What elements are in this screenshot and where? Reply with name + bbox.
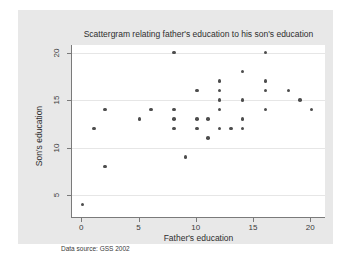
- data-point: [206, 117, 210, 121]
- data-point: [184, 155, 188, 159]
- data-point: [298, 98, 302, 102]
- x-axis-title: Father's education: [71, 233, 326, 243]
- screenshot-root: Scattergram relating father's education …: [0, 0, 350, 255]
- x-tick-label-20: 20: [306, 223, 315, 232]
- data-point: [172, 127, 176, 131]
- y-tick-20: [67, 53, 71, 54]
- y-tick-label-5: 5: [52, 187, 61, 203]
- data-point: [218, 79, 222, 83]
- data-point: [103, 108, 107, 112]
- data-source-note: Data source: GSS 2002: [61, 245, 130, 252]
- x-tick-label-0: 0: [79, 223, 83, 232]
- data-point: [241, 127, 245, 131]
- data-point: [241, 98, 245, 102]
- x-tick-label-10: 10: [191, 223, 200, 232]
- data-point: [195, 127, 199, 131]
- data-point: [264, 79, 268, 83]
- x-tick-20: [310, 218, 311, 222]
- data-point: [195, 117, 199, 121]
- y-tick-label-10: 10: [52, 140, 61, 156]
- x-tick-label-5: 5: [136, 223, 140, 232]
- data-point: [92, 127, 96, 131]
- data-point: [172, 51, 176, 55]
- data-point: [241, 117, 245, 121]
- data-point: [195, 89, 199, 93]
- x-tick-15: [253, 218, 254, 222]
- x-tick-5: [139, 218, 140, 222]
- gridline-y-5: [72, 195, 325, 196]
- data-point: [138, 117, 142, 121]
- data-point: [264, 108, 268, 112]
- data-point: [218, 89, 222, 93]
- y-tick-label-15: 15: [52, 92, 61, 108]
- x-tick-label-15: 15: [249, 223, 258, 232]
- data-point: [218, 127, 222, 131]
- x-tick-0: [81, 218, 82, 222]
- y-tick-label-20: 20: [52, 45, 61, 61]
- data-point: [206, 136, 210, 140]
- data-point: [81, 203, 85, 207]
- y-tick-10: [67, 148, 71, 149]
- data-point: [264, 51, 268, 55]
- data-point: [103, 165, 107, 169]
- data-point: [264, 89, 268, 93]
- data-point: [218, 108, 222, 112]
- plot-area: [71, 45, 325, 218]
- data-point: [172, 117, 176, 121]
- y-axis-title: Son's education: [34, 91, 44, 181]
- gridline-y-10: [72, 148, 325, 149]
- data-point: [149, 108, 153, 112]
- chart-title: Scattergram relating father's education …: [71, 29, 326, 39]
- data-point: [310, 108, 314, 112]
- data-point: [241, 70, 245, 74]
- x-tick-10: [196, 218, 197, 222]
- data-point: [218, 98, 222, 102]
- data-point: [172, 108, 176, 112]
- gridline-y-15: [72, 100, 325, 101]
- gridline-y-20: [72, 53, 325, 54]
- data-point: [287, 89, 291, 93]
- y-tick-15: [67, 100, 71, 101]
- y-tick-5: [67, 195, 71, 196]
- data-point: [229, 127, 233, 131]
- stata-graph-region: Scattergram relating father's education …: [18, 10, 333, 244]
